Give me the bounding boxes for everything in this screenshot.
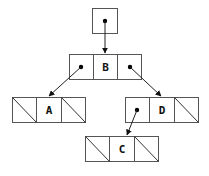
node-d: D [126, 98, 199, 123]
node-label: B [102, 61, 109, 74]
binary-tree-diagram: B A D C [0, 0, 209, 176]
node-label: D [159, 104, 166, 117]
node-label: A [46, 104, 53, 117]
node-c: C [86, 137, 159, 162]
node-a: A [13, 98, 86, 123]
edge-b-to-d [130, 67, 161, 96]
edge-b-to-a [49, 67, 81, 96]
node-label: C [119, 143, 126, 156]
